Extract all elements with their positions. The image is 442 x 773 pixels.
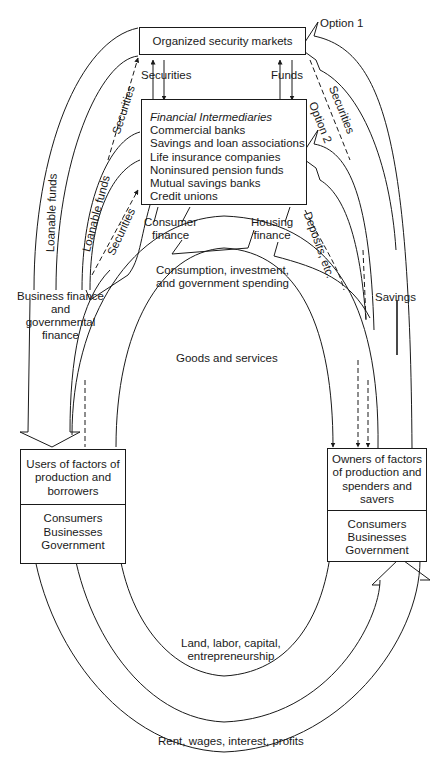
label-line: finance: [144, 229, 197, 242]
consumer-finance-label: Consumer finance: [144, 216, 197, 242]
security-markets-box: Organized security markets: [139, 27, 306, 55]
owners-line: savers: [328, 493, 426, 506]
factors-label: Land, labor, capital, entrepreneurship: [181, 637, 281, 663]
label-line: and: [17, 303, 104, 316]
funds-label-top: Funds: [271, 69, 303, 82]
sector-label: Consumers: [21, 512, 125, 525]
label-line: Business finance: [17, 290, 104, 303]
owners-sectors: Consumers Businesses Government: [328, 511, 426, 558]
label-line: governmental: [17, 316, 104, 329]
owners-line: of production and: [328, 466, 426, 479]
intermediary-item: Credit unions: [150, 190, 306, 203]
intermediary-item: Life insurance companies: [150, 151, 306, 164]
option1-label: Option 1: [320, 17, 363, 30]
security-markets-label: Organized security markets: [140, 28, 305, 48]
label-line: Housing: [251, 216, 293, 229]
label-line: Consumer: [144, 216, 197, 229]
owners-line: spenders and: [328, 480, 426, 493]
label-line: finance: [251, 229, 293, 242]
sector-label: Consumers: [328, 518, 426, 531]
sector-label: Businesses: [328, 531, 426, 544]
intermediary-item: Savings and loan associations: [150, 137, 306, 150]
intermediaries-title: Financial Intermediaries: [150, 111, 306, 124]
intermediary-item: Noninsured pension funds: [150, 164, 306, 177]
label-line: entrepreneurship: [181, 650, 281, 663]
users-line: borrowers: [21, 485, 125, 498]
label-line: and government spending: [156, 277, 289, 290]
sector-label: Businesses: [21, 526, 125, 539]
users-line: Users of factors of: [21, 458, 125, 471]
intermediary-item: Mutual savings banks: [150, 177, 306, 190]
spending-label: Consumption, investment, and government …: [156, 264, 289, 290]
owners-line: Owners of factors: [328, 453, 426, 466]
goods-services-label: Goods and services: [176, 352, 278, 365]
users-description: Users of factors of production and borro…: [21, 450, 125, 505]
label-line: finance: [17, 329, 104, 342]
users-sectors: Consumers Businesses Government: [21, 505, 125, 552]
income-label: Rent, wages, interest, profits: [158, 735, 304, 748]
sector-label: Government: [21, 539, 125, 552]
users-line: production and: [21, 471, 125, 484]
business-finance-label: Business finance and governmental financ…: [17, 290, 104, 342]
intermediary-item: Commercial banks: [150, 124, 306, 137]
housing-finance-label: Housing finance: [251, 216, 293, 242]
owners-description: Owners of factors of production and spen…: [328, 449, 426, 511]
securities-label-top: Securities: [141, 69, 192, 82]
owners-box: Owners of factors of production and spen…: [327, 448, 427, 562]
label-line: Consumption, investment,: [156, 264, 289, 277]
users-box: Users of factors of production and borro…: [20, 449, 126, 564]
financial-intermediaries-box: Financial Intermediaries Commercial bank…: [141, 99, 307, 205]
label-line: Land, labor, capital,: [181, 637, 281, 650]
savings-label: Savings: [375, 291, 416, 304]
sector-label: Government: [328, 544, 426, 557]
